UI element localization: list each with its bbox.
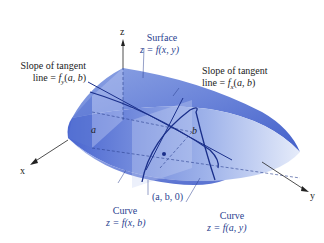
y-axis-label: y (310, 190, 315, 201)
y-axis (262, 162, 309, 192)
curve-xb-title: Curve (100, 205, 150, 216)
origin-point-label: (a, b, 0) (152, 191, 183, 202)
x-axis (30, 140, 68, 165)
curve-ay-title: Curve (207, 210, 257, 221)
surface-equation: z = f(x, y) (140, 44, 179, 55)
point-a-b-0 (162, 152, 166, 156)
slope-fy-line2: line = fy(a, b) (8, 72, 86, 88)
slope-fy-line1: Slope of tangent (8, 60, 86, 71)
z-axis-label: z (120, 26, 124, 37)
x-axis-label: x (20, 165, 25, 176)
curve-ay-equation: z = f(a, y) (207, 222, 247, 233)
point-a-label: a (91, 124, 96, 135)
slope-fx-line2: line = fx(a, b) (202, 77, 255, 93)
curve-xb-equation: z = f(x, b) (106, 217, 146, 228)
slope-fx-line1: Slope of tangent (202, 65, 268, 76)
surface (68, 68, 301, 188)
surface-title: Surface (142, 32, 182, 43)
z-axis (121, 39, 125, 70)
point-b-label: b (192, 125, 197, 136)
